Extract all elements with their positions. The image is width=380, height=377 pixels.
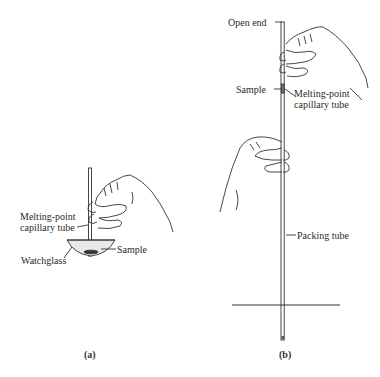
packing-tube — [281, 22, 284, 340]
label-capillary-tube-a-line1: Melting-point — [20, 211, 76, 222]
panel-b-illustration — [220, 22, 368, 340]
caption-a: (a) — [84, 349, 96, 360]
hand-b-lower — [220, 137, 282, 212]
sample-b — [281, 84, 284, 93]
hand-a — [95, 175, 173, 232]
label-packing-tube: Packing tube — [297, 230, 349, 241]
wrist-line — [350, 88, 362, 100]
label-capillary-tube-a-line2: capillary tube — [20, 222, 75, 233]
sample-a — [84, 250, 98, 254]
label-capillary-tube-b-line2: capillary tube — [294, 99, 349, 110]
label-open-end: Open end — [228, 17, 267, 28]
label-watchglass: Watchglass — [21, 255, 66, 266]
caption-b: (b) — [279, 349, 291, 360]
hand-b-upper — [286, 27, 368, 88]
leader-tube-a — [77, 225, 88, 227]
label-capillary-tube-b-line1: Melting-point — [294, 88, 350, 99]
label-sample-a: Sample — [117, 244, 147, 255]
diagram-canvas — [0, 0, 380, 377]
label-sample-b: Sample — [236, 84, 266, 95]
